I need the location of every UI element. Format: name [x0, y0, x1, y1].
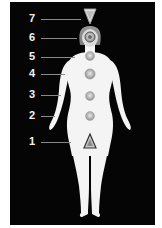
leader-line-6 — [41, 38, 77, 39]
chakra-label-6: 6 — [27, 32, 37, 43]
chakra-label-2: 2 — [27, 110, 37, 121]
leader-line-5 — [41, 57, 75, 58]
leader-line-3 — [41, 95, 61, 96]
leader-line-7 — [41, 19, 81, 20]
chakra-6-third-eye-icon — [85, 32, 95, 42]
chakra-label-7: 7 — [27, 13, 37, 24]
chakra-7-crown-icon — [84, 9, 96, 24]
chakra-label-1: 1 — [27, 136, 37, 147]
chakra-5-throat-icon — [86, 52, 95, 61]
chakra-4-heart-icon — [85, 69, 95, 79]
leader-line-4 — [41, 74, 65, 75]
human-figure-illustration — [0, 0, 162, 228]
leader-line-1 — [41, 142, 71, 143]
chakra-2-sacral-icon — [86, 112, 95, 121]
leader-line-2 — [41, 116, 55, 117]
chakra-3-solar-plexus-icon — [86, 92, 95, 101]
chakra-label-3: 3 — [27, 89, 37, 100]
chakra-label-5: 5 — [27, 51, 37, 62]
chakra-label-4: 4 — [27, 68, 37, 79]
